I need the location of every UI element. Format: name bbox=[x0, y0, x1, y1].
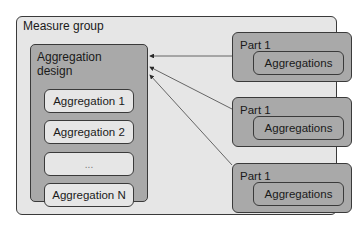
arrow-part3-to-design bbox=[150, 75, 232, 165]
arrows-layer bbox=[0, 0, 364, 251]
